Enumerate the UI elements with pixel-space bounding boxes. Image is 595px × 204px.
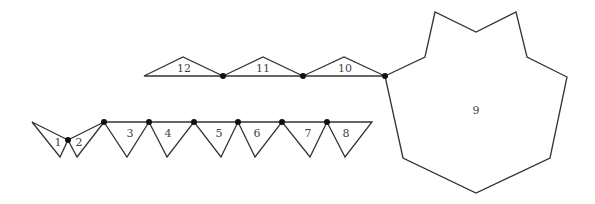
polygon-9: [385, 12, 567, 193]
joint-dot: [324, 119, 330, 125]
label-5: 5: [216, 127, 223, 140]
joint-dot: [279, 119, 285, 125]
joint-dot: [146, 119, 152, 125]
joint-dot: [101, 119, 107, 125]
label-2: 2: [76, 136, 83, 149]
label-7: 7: [305, 127, 312, 140]
joint-dot: [382, 73, 388, 79]
label-4: 4: [165, 127, 172, 140]
label-12: 12: [177, 62, 191, 75]
label-6: 6: [254, 127, 261, 140]
label-11: 11: [256, 62, 270, 75]
joint-dot: [191, 119, 197, 125]
diagram-canvas: 1 2 3 4 5 6 7 8 9 10 11 12: [0, 0, 595, 204]
triangle-4: [149, 122, 194, 157]
label-8: 8: [343, 127, 350, 140]
label-1: 1: [55, 136, 62, 149]
joint-dot: [235, 119, 241, 125]
joint-dot: [300, 73, 306, 79]
triangle-2: [68, 122, 104, 157]
joint-dot: [220, 73, 226, 79]
triangle-1: [32, 122, 68, 157]
label-9: 9: [473, 104, 480, 117]
joint-dot: [65, 137, 71, 143]
label-10: 10: [338, 62, 352, 75]
label-3: 3: [127, 127, 134, 140]
triangle-8: [327, 122, 372, 157]
